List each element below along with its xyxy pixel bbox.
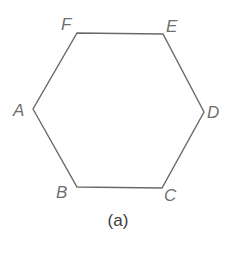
vertex-label-f: F [61, 15, 73, 34]
vertex-label-d: D [207, 103, 219, 122]
hexagon-shape [33, 33, 204, 188]
figure-caption: (a) [108, 211, 129, 230]
vertex-label-a: A [12, 101, 24, 120]
vertex-label-c: C [164, 186, 177, 205]
vertex-label-b: B [56, 183, 67, 202]
hexagon-diagram: A B C D E F (a) [0, 0, 247, 260]
vertex-label-e: E [166, 17, 178, 36]
